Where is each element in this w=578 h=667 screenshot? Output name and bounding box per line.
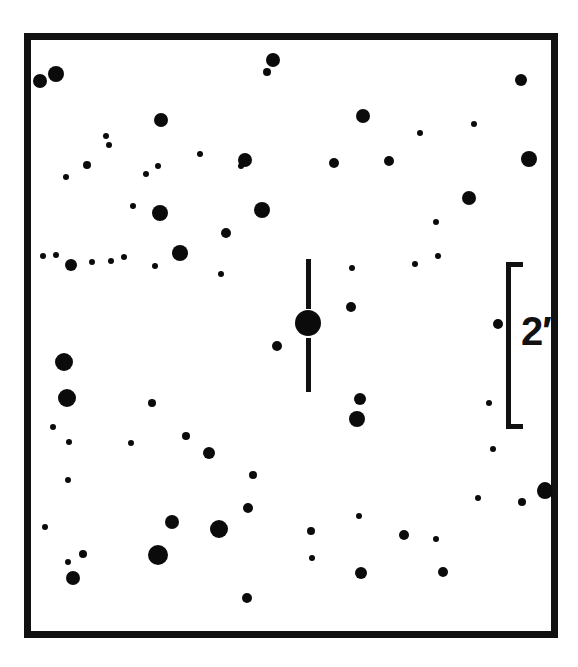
star-marker [42, 524, 48, 530]
star-marker [50, 424, 56, 430]
star-marker [53, 252, 59, 258]
star-marker [182, 432, 190, 440]
star-marker [221, 228, 231, 238]
star-marker [438, 567, 448, 577]
star-marker [490, 446, 496, 452]
star-marker [346, 302, 356, 312]
star-marker [203, 447, 215, 459]
star-marker [238, 163, 244, 169]
star-marker [349, 411, 365, 427]
star-marker [58, 389, 76, 407]
star-marker [249, 471, 257, 479]
scale-bar-label: 2′ [521, 311, 551, 351]
star-marker [493, 319, 503, 329]
star-marker [66, 439, 72, 445]
star-marker [242, 593, 252, 603]
star-marker [355, 567, 367, 579]
star-marker [48, 66, 64, 82]
star-marker [433, 219, 439, 225]
star-marker [309, 555, 315, 561]
star-marker [486, 400, 492, 406]
star-marker [152, 205, 168, 221]
star-marker [384, 156, 394, 166]
star-marker [121, 254, 127, 260]
star-marker [412, 261, 418, 267]
star-marker [106, 142, 112, 148]
star-marker [65, 477, 71, 483]
star-marker [254, 202, 270, 218]
star-marker [356, 513, 362, 519]
star-marker [210, 520, 228, 538]
star-marker [83, 161, 91, 169]
star-marker [197, 151, 203, 157]
target-marker-tick-top [306, 259, 311, 309]
star-marker [356, 109, 370, 123]
star-marker [307, 527, 315, 535]
star-marker [354, 393, 366, 405]
star-marker [79, 550, 87, 558]
star-marker [55, 353, 73, 371]
star-marker [148, 545, 168, 565]
star-marker [172, 245, 188, 261]
star-marker [155, 163, 161, 169]
star-marker [471, 121, 477, 127]
star-marker [538, 482, 552, 496]
star-field [0, 0, 578, 667]
star-marker [165, 515, 179, 529]
target-marker-tick-bottom [306, 338, 311, 392]
star-marker [66, 571, 80, 585]
star-marker [128, 440, 134, 446]
star-marker [521, 151, 537, 167]
star-marker [218, 271, 224, 277]
star-marker [103, 133, 109, 139]
star-marker [243, 503, 253, 513]
star-marker [399, 530, 409, 540]
star-marker [263, 68, 271, 76]
star-marker [518, 498, 526, 506]
star-marker [130, 203, 136, 209]
star-marker [65, 259, 77, 271]
star-marker [462, 191, 476, 205]
star-marker [435, 253, 441, 259]
star-marker [40, 253, 46, 259]
star-marker [108, 258, 114, 264]
star-marker [475, 495, 481, 501]
star-marker [89, 259, 95, 265]
star-marker [349, 265, 355, 271]
star-marker [329, 158, 339, 168]
star-marker [417, 130, 423, 136]
star-marker [152, 263, 158, 269]
star-marker [148, 399, 156, 407]
star-marker [33, 74, 47, 88]
star-marker [266, 53, 280, 67]
star-marker [63, 174, 69, 180]
star-marker [154, 113, 168, 127]
star-marker [65, 559, 71, 565]
finding-chart: 2′ [0, 0, 578, 667]
target-star-marker [295, 310, 321, 336]
star-marker [143, 171, 149, 177]
star-marker [515, 74, 527, 86]
star-marker [433, 536, 439, 542]
star-marker [272, 341, 282, 351]
